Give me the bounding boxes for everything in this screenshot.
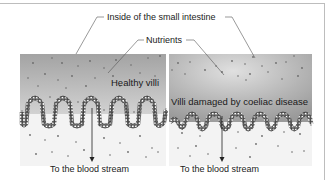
damaged-blood-stream-label: To the blood stream: [180, 164, 259, 174]
nutrients-label: Nutrients: [146, 35, 182, 45]
healthy-villi-caption: Healthy villi: [111, 78, 159, 88]
intestine-diagram: [0, 0, 336, 180]
damaged-villi-panel: [169, 54, 312, 166]
intestine-leader-left: [76, 17, 104, 54]
healthy-blood-stream-label: To the blood stream: [50, 164, 129, 174]
damaged-villi-caption: Villi damaged by coeliac disease: [171, 97, 308, 107]
healthy-villi-panel: [20, 54, 166, 166]
intestine-leader-right: [225, 17, 255, 58]
intestine-label: Inside of the small intestine: [107, 12, 216, 22]
